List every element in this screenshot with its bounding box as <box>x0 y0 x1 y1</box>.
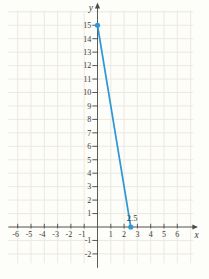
x-tick-label: 3 <box>135 230 139 239</box>
y-tick-label: 8 <box>87 115 91 124</box>
y-tick-label: 5 <box>87 156 91 165</box>
data-point <box>95 23 100 28</box>
x-tick-label: 4 <box>149 230 153 239</box>
point-annotation: 2.5 <box>127 213 138 223</box>
y-tick-label: 4 <box>87 169 91 178</box>
y-tick-label: 9 <box>87 102 91 111</box>
x-tick-label: -6 <box>12 230 19 239</box>
data-point <box>128 224 133 229</box>
annotation-layer: 2.5 <box>127 213 138 223</box>
x-axis-label: x <box>194 230 200 240</box>
y-tick-label: 7 <box>87 129 91 138</box>
y-tick-label: 10 <box>83 88 91 97</box>
y-tick-label: 15 <box>83 21 91 30</box>
x-tick-label: 5 <box>162 230 166 239</box>
x-tick-label: 1 <box>109 230 113 239</box>
plot-svg: -6-5-4-3-2-1123456-2-1123456789101112131… <box>0 0 209 279</box>
y-tick-label: 6 <box>87 142 91 151</box>
y-tick-label: 2 <box>87 196 91 205</box>
x-tick-label: -3 <box>52 230 59 239</box>
y-tick-label: -2 <box>85 250 92 259</box>
y-axis-label: y <box>88 3 94 13</box>
y-tick-label: 13 <box>83 48 91 57</box>
y-tick-label: -1 <box>85 236 92 245</box>
y-tick-label: 11 <box>84 75 92 84</box>
x-tick-label: -5 <box>26 230 33 239</box>
y-tick-label: 14 <box>83 35 91 44</box>
x-tick-label: 2 <box>122 230 126 239</box>
x-tick-label: -4 <box>39 230 46 239</box>
y-tick-label: 12 <box>83 61 91 70</box>
x-tick-label: 6 <box>175 230 179 239</box>
y-tick-label: 3 <box>87 182 91 191</box>
x-tick-label: -2 <box>66 230 73 239</box>
y-tick-label: 1 <box>87 209 91 218</box>
coordinate-plane-figure: -6-5-4-3-2-1123456-2-1123456789101112131… <box>0 0 209 279</box>
